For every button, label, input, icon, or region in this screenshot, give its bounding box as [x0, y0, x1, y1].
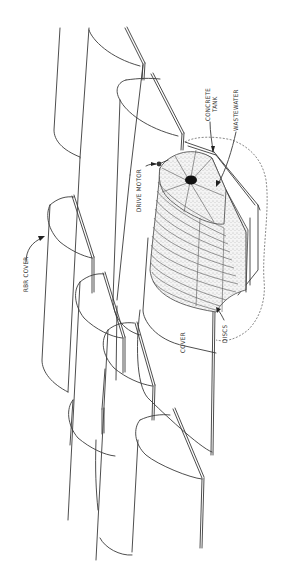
label-discs: DISCS: [221, 324, 228, 343]
label-cover: COVER: [179, 332, 186, 353]
cover-c2: [96, 322, 155, 560]
rbr-cover-b3: [69, 369, 115, 456]
rbc-diagram: CONCRETE TANK WASTEWATER DRIVE MOTOR RBR…: [0, 0, 286, 575]
label-drive-motor: DRIVE MOTOR: [135, 169, 142, 212]
rbr-cover-c1: [113, 65, 143, 380]
disc-assembly: [150, 150, 248, 312]
label-concrete-tank-line2: TANK: [211, 96, 218, 113]
label-wastewater: WASTEWATER: [232, 89, 239, 131]
rbr-cover-a1: [54, 27, 145, 158]
rbr-cover-b1: [42, 158, 94, 470]
leader-discs: [216, 307, 224, 320]
leader-drive-motor: [146, 162, 157, 166]
cover-c3: [96, 408, 204, 555]
label-concrete-tank-line1: CONCRETE: [204, 88, 211, 121]
shaft-hub-icon: [185, 176, 197, 185]
label-rbr-cover: RBR COVER: [22, 257, 29, 292]
